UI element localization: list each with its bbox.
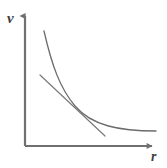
tangent-line <box>40 75 105 136</box>
x-axis-label: r <box>151 150 156 164</box>
figure-container: v r <box>0 0 167 168</box>
y-axis-label: v <box>7 11 14 26</box>
decay-curve <box>44 31 156 131</box>
plot-canvas <box>0 0 167 168</box>
